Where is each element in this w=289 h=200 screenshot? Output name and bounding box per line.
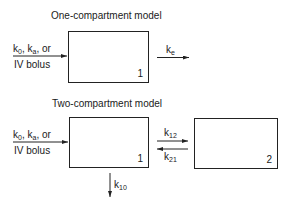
k10-sub: 10 <box>119 184 127 191</box>
input-or-text: , or <box>36 129 50 140</box>
one-compartment-input-label: k0, ka, or <box>13 44 51 54</box>
two-compartment-input-label: k0, ka, or <box>13 130 51 140</box>
two-compartment-title: Two-compartment model <box>52 99 162 109</box>
k12-label: k12 <box>164 128 177 138</box>
input-or-text: , or <box>36 43 50 54</box>
input-k-base-a: , k <box>22 43 33 54</box>
ke-sub: e <box>171 49 175 56</box>
k21-label: k21 <box>164 152 177 162</box>
peripheral-compartment-box: 2 <box>194 118 278 169</box>
compartment-1-box: 1 <box>68 31 149 83</box>
compartment-number: 2 <box>266 155 272 165</box>
one-compartment-title: One-compartment model <box>51 11 162 21</box>
compartment-number: 1 <box>137 69 143 79</box>
compartment-number: 1 <box>137 154 143 164</box>
k12-sub: 12 <box>169 132 177 139</box>
input-k-base-a: , k <box>22 129 33 140</box>
k21-sub: 21 <box>169 156 177 163</box>
ke-label: ke <box>166 45 175 55</box>
k10-label: k10 <box>114 180 127 190</box>
two-compartment-iv-bolus-label: IV bolus <box>14 146 50 156</box>
central-compartment-box: 1 <box>69 117 149 168</box>
one-compartment-iv-bolus-label: IV bolus <box>14 60 50 70</box>
